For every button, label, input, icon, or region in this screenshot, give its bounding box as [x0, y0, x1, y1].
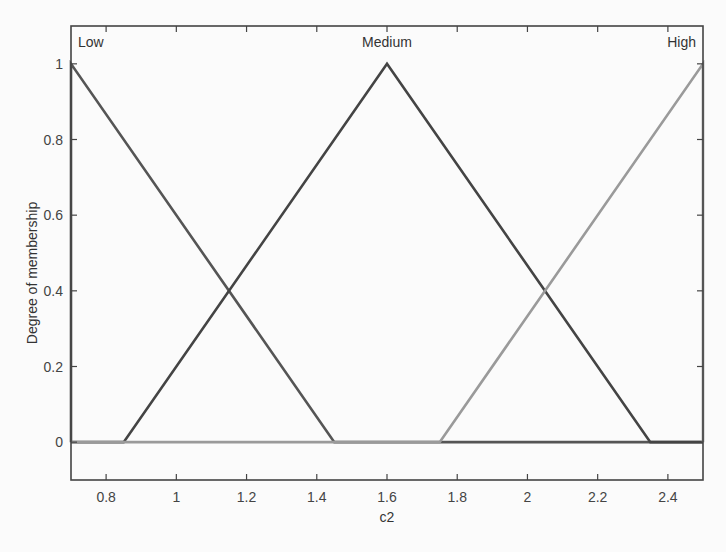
- axes-frame: [71, 26, 703, 480]
- y-tick-label: 0: [55, 434, 63, 450]
- y-tick-label: 0.8: [44, 132, 64, 148]
- x-axis-label: c2: [380, 509, 395, 525]
- plot-lines: [71, 64, 703, 442]
- y-axis-label: Degree of membership: [24, 202, 40, 345]
- axis-ticks: 0.811.21.41.61.822.22.400.20.40.60.81: [44, 26, 703, 505]
- x-tick-label: 1.8: [447, 489, 467, 505]
- x-tick-label: 2.2: [588, 489, 608, 505]
- x-tick-label: 1.2: [237, 489, 257, 505]
- mf-line-high: [71, 64, 703, 442]
- x-tick-label: 2: [524, 489, 532, 505]
- y-tick-label: 0.2: [44, 359, 64, 375]
- mf-label-high: High: [667, 34, 696, 50]
- mf-line-medium: [71, 64, 703, 442]
- x-tick-label: 2.4: [658, 489, 678, 505]
- membership-labels: LowMediumHigh: [78, 34, 696, 50]
- membership-function-plot: 0.811.21.41.61.822.22.400.20.40.60.81 Lo…: [0, 0, 726, 552]
- mf-label-medium: Medium: [362, 34, 412, 50]
- mf-label-low: Low: [78, 34, 105, 50]
- x-tick-label: 1.6: [377, 489, 397, 505]
- x-tick-label: 0.8: [96, 489, 116, 505]
- x-tick-label: 1: [172, 489, 180, 505]
- y-tick-label: 0.4: [44, 283, 64, 299]
- mf-line-low: [71, 64, 703, 442]
- y-tick-label: 1: [55, 56, 63, 72]
- x-tick-label: 1.4: [307, 489, 327, 505]
- y-tick-label: 0.6: [44, 207, 64, 223]
